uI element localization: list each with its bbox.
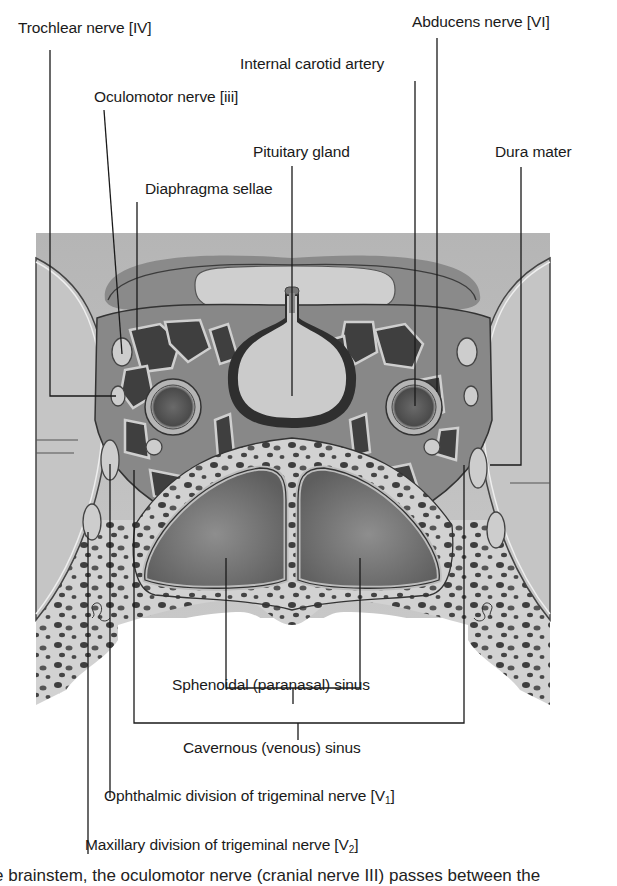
caption-partial-text: e brainstem, the oculomotor nerve (crani… [0,866,540,886]
label-sphenoidal-sinus: Sphenoidal (paranasal) sinus [172,676,370,694]
maxillary-text: Maxillary division of trigeminal nerve [… [85,836,349,853]
label-oculomotor-nerve: Oculomotor nerve [iii] [94,88,238,106]
label-internal-carotid-artery: Internal carotid artery [240,55,384,73]
label-pituitary-gland: Pituitary gland [253,143,350,161]
label-abducens-nerve: Abducens nerve [VI] [412,13,550,31]
ophthalmic-close: ] [390,787,394,804]
label-diaphragma-sellae: Diaphragma sellae [145,180,273,198]
label-ophthalmic-division: Ophthalmic division of trigeminal nerve … [104,787,395,806]
label-trochlear-nerve: Trochlear nerve [IV] [18,19,152,37]
label-maxillary-division: Maxillary division of trigeminal nerve [… [85,836,359,855]
internal-carotid-left [145,379,201,435]
ophthalmic-text: Ophthalmic division of trigeminal nerve … [104,787,385,804]
maxillary-close: ] [354,836,358,853]
internal-carotid-right [386,379,442,435]
label-dura-mater: Dura mater [495,143,572,161]
label-cavernous-sinus: Cavernous (venous) sinus [183,739,361,757]
